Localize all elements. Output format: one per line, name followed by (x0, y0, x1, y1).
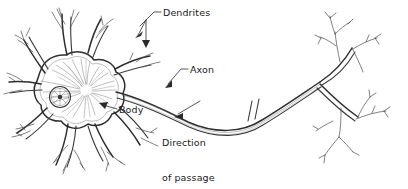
neuron-diagram-figure: .ink { fill:none; stroke:#3a3a3a; stroke… (0, 0, 408, 189)
axon-group (116, 12, 390, 163)
node-of-ranvier (248, 99, 259, 121)
label-direction-line2: of passage (162, 172, 215, 184)
soma-striations (41, 59, 116, 118)
label-body: Body (119, 104, 143, 115)
label-dendrites: Dendrites (163, 7, 210, 18)
label-axon: Axon (190, 64, 214, 75)
dendrites-group (4, 8, 160, 174)
label-direction-of-impulse: Direction of passage of impulse (162, 114, 215, 189)
label-direction-line1: Direction (162, 137, 215, 149)
nucleus-group (50, 87, 71, 108)
